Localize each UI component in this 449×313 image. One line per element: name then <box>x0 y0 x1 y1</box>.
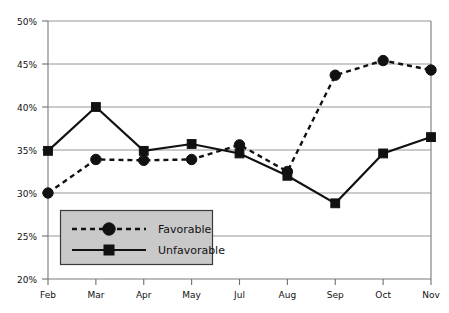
x-tick-label-feb: Feb <box>40 290 56 300</box>
x-axis-ticks: FebMarAprMayJulAugSepOctNov <box>40 279 440 300</box>
y-tick-label-35: 35% <box>17 146 37 156</box>
legend-label-unfavorable: Unfavorable <box>158 244 225 257</box>
datapoint-favorable-nov <box>426 65 436 75</box>
datapoint-favorable-feb <box>43 188 53 198</box>
gridlines <box>48 21 431 236</box>
datapoint-unfavorable-may <box>187 140 196 149</box>
chart-canvas: 20%25%30%35%40%45%50% FebMarAprMayJulAug… <box>0 0 449 313</box>
datapoint-favorable-mar <box>91 154 101 164</box>
datapoint-favorable-sep <box>330 70 340 80</box>
series-unfavorable <box>44 103 436 208</box>
series-line-favorable <box>48 61 431 193</box>
datapoint-unfavorable-feb <box>44 146 53 155</box>
datapoint-unfavorable-apr <box>139 146 148 155</box>
x-tick-label-jul: Jul <box>233 290 245 300</box>
x-tick-label-nov: Nov <box>422 290 440 300</box>
x-tick-label-apr: Apr <box>136 290 152 300</box>
datapoint-unfavorable-sep <box>331 199 340 208</box>
y-tick-label-25: 25% <box>17 232 37 242</box>
legend-label-favorable: Favorable <box>158 223 212 236</box>
datapoint-favorable-jul <box>234 140 244 150</box>
line-chart: 20%25%30%35%40%45%50% FebMarAprMayJulAug… <box>0 0 449 313</box>
datapoint-unfavorable-oct <box>379 149 388 158</box>
datapoint-unfavorable-aug <box>283 171 292 180</box>
series-favorable <box>43 55 436 198</box>
chart-legend[interactable]: Favorable Unfavorable <box>61 211 226 265</box>
y-tick-label-30: 30% <box>17 189 37 199</box>
y-tick-label-20: 20% <box>17 275 37 285</box>
x-tick-label-mar: Mar <box>87 290 104 300</box>
legend-swatch-circle-marker <box>103 223 115 235</box>
series-layer <box>43 55 436 207</box>
datapoint-unfavorable-mar <box>91 103 100 112</box>
y-tick-label-40: 40% <box>17 103 37 113</box>
y-tick-label-45: 45% <box>17 60 37 70</box>
y-tick-label-50: 50% <box>17 17 37 27</box>
datapoint-favorable-oct <box>378 55 388 65</box>
x-tick-label-aug: Aug <box>279 290 297 300</box>
x-tick-label-may: May <box>182 290 201 300</box>
x-tick-label-oct: Oct <box>375 290 391 300</box>
datapoint-unfavorable-nov <box>427 133 436 142</box>
datapoint-favorable-apr <box>139 155 149 165</box>
legend-swatch-square-marker <box>104 245 114 255</box>
datapoint-favorable-may <box>186 154 196 164</box>
x-tick-label-sep: Sep <box>327 290 344 300</box>
datapoint-unfavorable-jul <box>235 149 244 158</box>
